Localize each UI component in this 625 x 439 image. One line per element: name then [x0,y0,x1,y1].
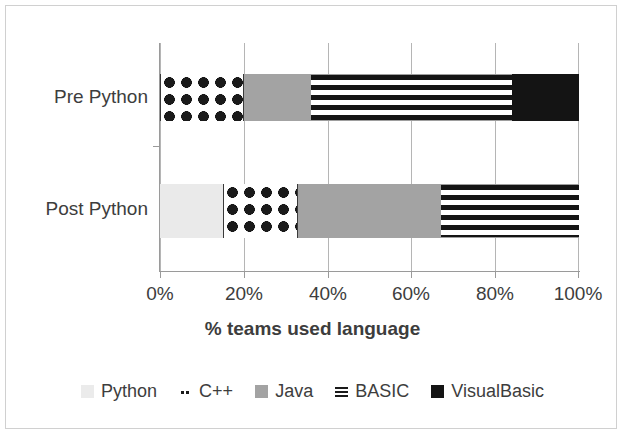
value-tick-label-100: 100% [554,283,603,305]
category-axis-line [159,43,160,272]
chart-frame: Pre Python Post Python 0% 20% 40% 60% 80… [5,5,617,429]
value-axis-tick-40 [328,272,329,278]
value-tick-label-40: 40% [309,283,347,305]
legend-label-basic: BASIC [355,381,409,402]
legend-label-python: Python [101,381,157,402]
legend-item-java[interactable]: Java [255,381,313,402]
bar-segment-pre-python-java [244,74,311,121]
value-tick-label-80: 80% [476,283,514,305]
legend-item-visualbasic[interactable]: VisualBasic [431,381,544,402]
value-axis-tick-80 [495,272,496,278]
value-tick-label-20: 20% [225,283,263,305]
legend-swatch-basic-icon [335,387,348,397]
bar-segment-pre-python-cpp [160,74,244,121]
legend-swatch-java-icon [255,385,268,398]
x-axis-title: % teams used language [0,318,625,340]
value-axis-tick-20 [244,272,245,278]
bar-segment-post-python-python [160,184,223,238]
plot-area [160,43,579,271]
category-axis-tick [153,146,160,147]
bar-segment-pre-python-visualbasic [512,74,579,121]
bar-segment-post-python-java [298,184,440,238]
value-axis-tick-100 [578,272,579,278]
category-label-pre-python: Pre Python [36,86,148,108]
legend-swatch-visualbasic-icon [431,385,444,398]
legend-label-cpp: C++ [199,381,233,402]
legend-swatch-cpp-icon [179,385,192,398]
legend-label-visualbasic: VisualBasic [451,381,544,402]
value-axis-tick-0 [160,272,161,278]
bar-segment-post-python-cpp [223,184,298,238]
value-axis-tick-60 [411,272,412,278]
bar-segment-pre-python-basic [311,74,512,121]
value-axis-line [160,271,580,272]
legend-item-cpp[interactable]: C++ [179,381,233,402]
legend-label-java: Java [275,381,313,402]
chart-legend: Python C++ Java BASIC VisualBasic [0,381,625,402]
category-label-post-python: Post Python [26,198,148,220]
value-tick-label-0: 0% [146,283,173,305]
legend-item-basic[interactable]: BASIC [335,381,409,402]
value-tick-label-60: 60% [392,283,430,305]
legend-item-python[interactable]: Python [81,381,157,402]
bar-segment-post-python-basic [441,184,579,238]
legend-swatch-python-icon [81,385,94,398]
